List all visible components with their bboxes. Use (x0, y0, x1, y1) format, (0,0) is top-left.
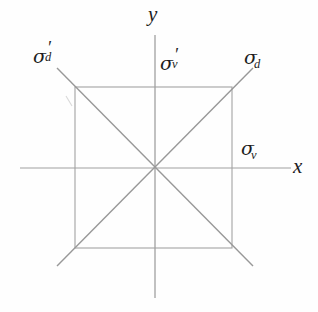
sigma-v-prime-stack: ′v (173, 51, 183, 70)
subscript-glyph: v (251, 148, 257, 162)
axis-label-y: y (148, 4, 157, 25)
subscript-glyph: d (45, 51, 51, 64)
label-sigma-d: σd (244, 48, 263, 67)
axis-label-x: x (293, 156, 302, 177)
subscript-glyph: v (172, 58, 178, 71)
symmetry-diagram-figure: σ′d σ′v σd σv x y (0, 0, 318, 312)
label-sigma-v-prime: σ′v (160, 51, 183, 73)
subscript-glyph: d (254, 57, 260, 71)
scan-artifact-mark (66, 96, 72, 106)
label-sigma-v: σv (241, 139, 260, 158)
sigma-d-prime-stack: ′d (46, 44, 56, 63)
label-sigma-d-prime: σ′d (33, 44, 56, 66)
